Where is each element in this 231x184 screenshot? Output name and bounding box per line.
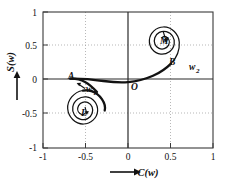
y-axis-label: S(w) (5, 52, 17, 72)
x-axis-direction-arrow (110, 169, 141, 176)
x-ticks (43, 143, 213, 148)
y-axis-direction-arrow (14, 71, 21, 100)
label-w2: w 2 (189, 62, 200, 75)
y-tick-label-4: -1 (29, 143, 37, 153)
x-tick-label-2: 0 (126, 152, 131, 162)
y-tick-label-1: 0.5 (25, 41, 37, 51)
plot-svg: -1 -0.5 0 0.5 1 1 0.5 0 -0.5 -1 C(w) S(w… (0, 0, 231, 184)
label-w1-base: w (86, 84, 93, 94)
x-axis-label: C(w) (138, 167, 159, 179)
cornu-spiral-figure: -1 -0.5 0 0.5 1 1 0.5 0 -0.5 -1 C(w) S(w… (0, 0, 231, 184)
label-w1-sub: 1 (93, 89, 97, 97)
label-w2-sub: 2 (195, 67, 200, 75)
label-spiral-lower-l: L (80, 108, 87, 118)
label-w1: w 1 (86, 84, 97, 97)
y-ticks (43, 12, 48, 148)
x-tick-label-0: -1 (39, 152, 47, 162)
x-tick-label-1: -0.5 (78, 152, 93, 162)
label-w2-base: w (189, 62, 196, 72)
label-origin: O (131, 82, 138, 92)
x-tick-label-3: 0.5 (165, 152, 177, 162)
label-spiral-upper-m: M (159, 36, 169, 46)
y-tick-label-2: 0 (32, 75, 37, 85)
y-tick-label-0: 1 (32, 8, 37, 18)
label-point-a: A (67, 71, 74, 81)
leader-arrow-w1 (77, 83, 85, 89)
label-point-b: B (168, 57, 175, 67)
y-tick-label-3: -0.5 (22, 109, 37, 119)
x-tick-label-4: 1 (211, 152, 216, 162)
